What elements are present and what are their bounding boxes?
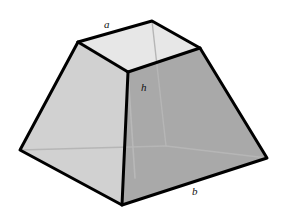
frustum-drawing xyxy=(0,0,285,222)
frustum-figure: a h b xyxy=(0,0,285,222)
label-b: b xyxy=(192,186,198,197)
label-a: a xyxy=(104,19,110,30)
label-h: h xyxy=(141,82,147,93)
